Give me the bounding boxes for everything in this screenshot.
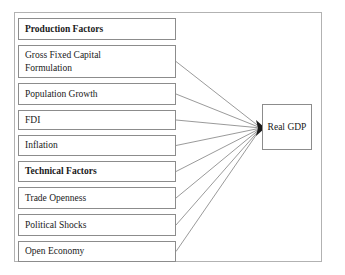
factor-box-label: FDI: [19, 114, 44, 127]
factor-box: Population Growth: [18, 83, 176, 105]
factor-box: Inflation: [18, 135, 176, 156]
factor-box-label: Population Growth: [19, 88, 102, 101]
factor-box: Production Factors: [18, 18, 176, 40]
factor-box-label: Trade Openness: [19, 192, 90, 205]
factor-box: FDI: [18, 110, 176, 130]
factor-box-label: Technical Factors: [19, 165, 101, 178]
factor-box-label: Inflation: [19, 139, 62, 152]
factor-box: Technical Factors: [18, 161, 176, 182]
target-box-real-gdp: Real GDP: [262, 104, 312, 150]
factor-box: Trade Openness: [18, 187, 176, 209]
factor-box-label: Production Factors: [19, 23, 107, 36]
diagram-canvas: Production FactorsGross Fixed Capital Fo…: [0, 0, 345, 275]
factor-box: Open Economy: [18, 241, 176, 262]
factor-box: Gross Fixed Capital Formulation: [18, 45, 176, 78]
factor-box-label: Open Economy: [19, 245, 88, 258]
factor-box-label: Political Shocks: [19, 219, 91, 232]
target-box-label: Real GDP: [268, 122, 307, 132]
factor-box: Political Shocks: [18, 214, 176, 236]
factor-box-label: Gross Fixed Capital Formulation: [19, 49, 105, 75]
